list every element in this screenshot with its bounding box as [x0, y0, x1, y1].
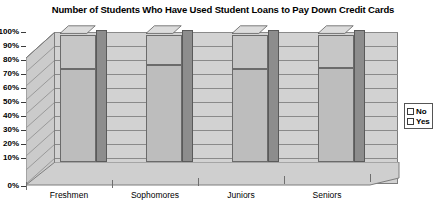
xtick-mark-0 — [26, 182, 27, 190]
bar-top-face-freshmen — [60, 25, 96, 35]
bar-top-face-juniors — [232, 25, 268, 35]
ytick-label-30: 30% — [0, 126, 19, 134]
xtick-mark-1 — [112, 180, 113, 188]
ytick-mark-100 — [21, 32, 26, 33]
ytick-mark-50 — [21, 102, 26, 103]
xtick-label-sophomores: Sophomores — [110, 190, 200, 200]
bar-juniors — [232, 35, 268, 162]
bar-top-face-sophomores — [146, 25, 182, 35]
bar-top-face-seniors — [318, 25, 354, 35]
chart-title: Number of Students Who Have Used Student… — [0, 4, 446, 15]
bar-side-face-freshmen — [96, 30, 107, 162]
ytick-label-40: 40% — [0, 112, 19, 120]
bar-sophomores — [146, 35, 182, 162]
bar-segment-no-freshmen — [60, 35, 96, 69]
bar-side-face-seniors — [354, 30, 365, 162]
plot-floor — [26, 162, 400, 186]
bar-segment-yes-sophomores — [146, 65, 182, 162]
bar-seniors — [318, 35, 354, 162]
legend-label-no: No — [416, 107, 427, 116]
bar-segment-no-juniors — [232, 35, 268, 69]
xtick-label-juniors: Juniors — [196, 190, 286, 200]
ytick-mark-80 — [21, 60, 26, 61]
bar-side-face-juniors — [268, 30, 279, 162]
bar-side-face-sophomores — [182, 30, 193, 162]
bar-segment-yes-seniors — [318, 68, 354, 162]
ytick-label-10: 10% — [0, 154, 19, 162]
ytick-label-20: 20% — [0, 140, 19, 148]
xtick-label-seniors: Seniors — [282, 190, 372, 200]
ytick-mark-60 — [21, 88, 26, 89]
ytick-label-60: 60% — [0, 84, 19, 92]
ytick-mark-90 — [21, 46, 26, 47]
ytick-mark-10 — [21, 158, 26, 159]
chart-figure: Number of Students Who Have Used Student… — [0, 0, 446, 218]
ytick-label-80: 80% — [0, 56, 19, 64]
legend-label-yes: Yes — [416, 117, 430, 126]
legend-item-no[interactable]: No — [407, 106, 430, 116]
ytick-label-100: 100% — [0, 28, 19, 36]
bar-segment-yes-juniors — [232, 69, 268, 162]
plot-area — [26, 32, 398, 186]
bar-segment-no-sophomores — [146, 35, 182, 65]
ytick-mark-20 — [21, 144, 26, 145]
ytick-mark-40 — [21, 116, 26, 117]
ytick-label-70: 70% — [0, 70, 19, 78]
ytick-label-0: 0% — [0, 182, 19, 190]
chart-legend: No Yes — [404, 103, 433, 129]
ytick-mark-30 — [21, 130, 26, 131]
ytick-mark-70 — [21, 74, 26, 75]
ytick-label-50: 50% — [0, 98, 19, 106]
legend-swatch-yes-icon — [407, 118, 414, 125]
legend-swatch-no-icon — [407, 108, 414, 115]
xtick-mark-3 — [284, 176, 285, 184]
xtick-mark-2 — [198, 178, 199, 186]
xtick-label-freshmen: Freshmen — [24, 190, 114, 200]
bar-segment-no-seniors — [318, 35, 354, 68]
bar-freshmen — [60, 35, 96, 162]
bar-segment-yes-freshmen — [60, 69, 96, 162]
ytick-label-90: 90% — [0, 42, 19, 50]
xtick-mark-4 — [370, 174, 371, 182]
legend-item-yes[interactable]: Yes — [407, 116, 430, 126]
